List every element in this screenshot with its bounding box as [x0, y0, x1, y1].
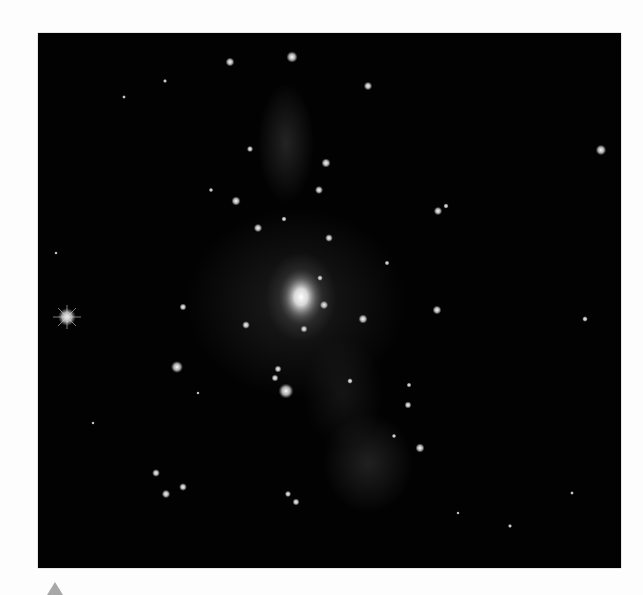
bright-star — [53, 305, 81, 329]
central-galaxy — [266, 252, 336, 342]
sky-image — [38, 33, 621, 568]
page — [0, 0, 643, 595]
triangle-marker-icon — [47, 582, 63, 595]
galaxy-cluster-photo — [38, 33, 621, 568]
